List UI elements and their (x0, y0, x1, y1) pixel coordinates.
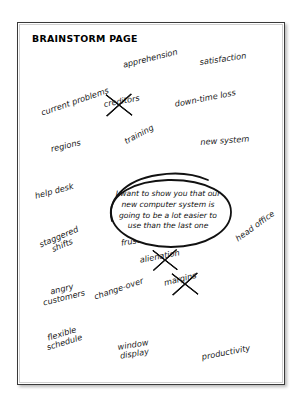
note-training: training (123, 123, 155, 146)
note-current-problems: current problems (40, 86, 110, 118)
note-creditors: creditors (103, 94, 140, 109)
page-title: BRAINSTORM PAGE (32, 33, 138, 44)
note-satisfaction: satisfaction (199, 51, 247, 67)
brainstorm-page-sheet: BRAINSTORM PAGE current problems apprehe… (17, 22, 285, 385)
speech-bubble: I want to show you that our new computer… (106, 175, 230, 249)
note-change-over: change-over (93, 276, 145, 302)
note-productivity: productivity (201, 344, 251, 363)
note-new-system: new system (200, 135, 250, 148)
note-help-desk: help desk (34, 182, 75, 201)
speech-bubble-text: I want to show you that our new computer… (115, 189, 221, 232)
note-apprehension: apprehension (122, 47, 179, 70)
note-flexible-schedule: flexible schedule (43, 324, 84, 353)
note-margins: margins (163, 271, 198, 288)
note-down-time-loss: down-time loss (174, 88, 237, 109)
note-window-display: window display (117, 338, 151, 361)
note-regions: regions (50, 138, 82, 154)
note-staggered-shifts: staggered shifts (38, 225, 84, 258)
note-angry-customers: angry customers (40, 280, 86, 308)
